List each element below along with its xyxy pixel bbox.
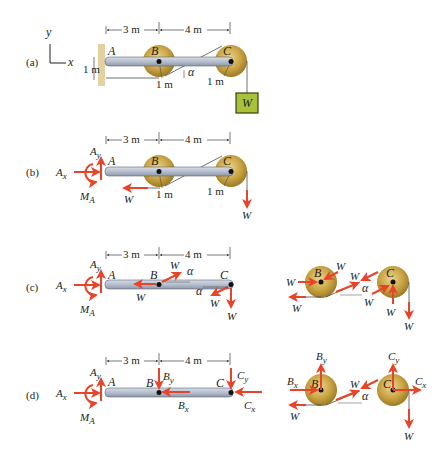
svg-text:1 m: 1 m — [207, 185, 224, 197]
panel-label-d: (d) — [26, 389, 39, 402]
panel-c: (c) 3 m 4 m A B C Ax Ay MA W W — [26, 247, 414, 332]
svg-text:W: W — [136, 291, 146, 303]
svg-text:α: α — [196, 284, 203, 298]
svg-text:α: α — [362, 281, 369, 295]
svg-text:W: W — [210, 297, 220, 309]
svg-text:W: W — [404, 320, 414, 332]
svg-text:4 m: 4 m — [185, 354, 202, 366]
svg-text:Ax: Ax — [55, 387, 67, 402]
svg-text:Cy: Cy — [388, 350, 399, 365]
free-body-diagram: (a) y x 1 m 3 m 4 m — [0, 0, 445, 455]
svg-text:C: C — [223, 154, 232, 168]
svg-text:Bx: Bx — [178, 399, 189, 414]
svg-text:MA: MA — [79, 303, 95, 318]
svg-text:W: W — [124, 193, 134, 205]
svg-text:A: A — [107, 44, 116, 58]
svg-text:W: W — [242, 96, 253, 110]
svg-text:1 m: 1 m — [156, 78, 173, 90]
svg-text:4 m: 4 m — [185, 248, 202, 260]
angle-alpha: α — [188, 65, 195, 79]
svg-text:C: C — [383, 377, 392, 391]
svg-text:By: By — [163, 370, 174, 385]
svg-text:B: B — [151, 44, 159, 58]
svg-text:Bx: Bx — [287, 375, 298, 390]
moment-arrow-ma — [85, 164, 96, 182]
svg-text:α: α — [362, 389, 369, 403]
pulley-fbd-c: B C W W W W α W W W — [286, 260, 414, 332]
svg-text:Ay: Ay — [89, 145, 101, 160]
dimension-line-top: 3 m 4 m — [106, 22, 230, 35]
pin-b — [157, 59, 162, 64]
pin-c — [229, 59, 234, 64]
wall-dimension: 1 m — [83, 57, 100, 80]
svg-text:W: W — [336, 260, 346, 272]
svg-text:W: W — [386, 306, 396, 318]
panel-b: (b) 3 m 4 m A B C 1 m 1 m — [26, 132, 252, 221]
panel-label-b: (b) — [26, 166, 39, 179]
svg-text:B: B — [146, 376, 154, 390]
svg-text:4 m: 4 m — [185, 23, 202, 35]
svg-text:MA: MA — [79, 190, 95, 205]
svg-text:W: W — [404, 430, 414, 442]
svg-text:3 m: 3 m — [123, 133, 140, 145]
reactions-a: Ax Ay MA — [55, 145, 101, 205]
svg-text:W: W — [350, 270, 360, 282]
svg-text:A: A — [107, 268, 116, 282]
svg-text:W: W — [350, 378, 360, 390]
svg-text:MA: MA — [79, 411, 95, 426]
svg-text:W: W — [227, 310, 237, 322]
beam-abc — [105, 280, 233, 289]
svg-text:Ay: Ay — [89, 366, 101, 381]
svg-text:3 m: 3 m — [123, 23, 140, 35]
svg-text:B: B — [150, 268, 158, 282]
svg-text:W: W — [364, 296, 374, 308]
svg-text:A: A — [107, 154, 116, 168]
reactions-a: Ax Ay MA — [55, 366, 101, 426]
svg-text:Cx: Cx — [244, 399, 255, 414]
svg-text:B: B — [311, 377, 319, 391]
svg-text:W: W — [290, 410, 300, 422]
svg-text:Cy: Cy — [237, 369, 248, 384]
svg-text:B: B — [314, 266, 322, 280]
svg-text:1 m: 1 m — [156, 188, 173, 200]
svg-text:α: α — [187, 264, 194, 278]
panel-d: (d) 3 m 4 m A B C Ax Ay MA By Bx — [26, 350, 426, 442]
dimension-line-top: 3 m 4 m — [106, 353, 230, 366]
y-axis-label: y — [45, 25, 52, 39]
pulley-fbd-d: B C By Bx W W α Cy Cx W — [287, 350, 426, 442]
beam-abc — [105, 167, 233, 176]
svg-text:W: W — [286, 276, 296, 288]
panel-a: (a) y x 1 m 3 m 4 m — [26, 22, 258, 113]
svg-text:1 m: 1 m — [207, 75, 224, 87]
svg-text:By: By — [316, 350, 327, 365]
svg-text:W: W — [292, 302, 302, 314]
beam-abc — [105, 57, 233, 66]
svg-text:C: C — [223, 44, 232, 58]
svg-text:B: B — [151, 154, 159, 168]
reactions-a: Ax Ay MA — [55, 258, 101, 318]
svg-text:Ax: Ax — [55, 166, 67, 181]
svg-text:C: C — [386, 266, 395, 280]
svg-text:W: W — [242, 209, 252, 221]
panel-label-c: (c) — [26, 281, 39, 294]
svg-text:C: C — [220, 268, 229, 282]
svg-text:3 m: 3 m — [123, 354, 140, 366]
svg-text:4 m: 4 m — [185, 133, 202, 145]
svg-text:Cx: Cx — [415, 375, 426, 390]
dimension-line-top: 3 m 4 m — [106, 132, 230, 145]
svg-text:1 m: 1 m — [83, 63, 100, 75]
svg-text:C: C — [216, 376, 225, 390]
x-axis-label: x — [67, 55, 74, 69]
svg-text:Ay: Ay — [89, 258, 101, 273]
svg-text:W: W — [170, 259, 180, 271]
coordinate-axes: y x — [45, 25, 74, 69]
svg-text:3 m: 3 m — [123, 248, 140, 260]
panel-label-a: (a) — [26, 56, 39, 69]
dimension-line-top: 3 m 4 m — [106, 247, 230, 260]
svg-text:Ax: Ax — [55, 279, 67, 294]
svg-text:A: A — [107, 375, 116, 389]
